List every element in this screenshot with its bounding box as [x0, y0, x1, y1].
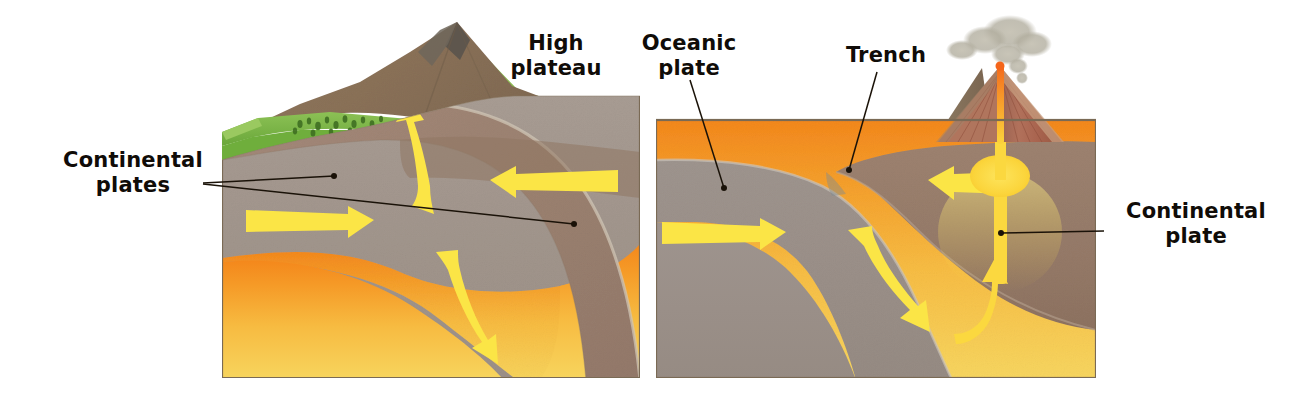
right-cross-section	[656, 120, 1096, 380]
label-oceanic-plate-line1: Oceanic	[642, 31, 737, 55]
label-continental-plates-line2: plates	[96, 173, 170, 197]
leader-endpoint-dot	[331, 173, 337, 179]
right-panel-scene	[656, 15, 1096, 380]
label-high-plateau[interactable]: High plateau	[510, 31, 601, 80]
label-oceanic-plate-line2: plate	[658, 56, 720, 80]
label-trench-line1: Trench	[846, 43, 926, 67]
label-continental-plates-line1: Continental	[63, 148, 203, 172]
volcano	[936, 62, 1064, 145]
diagram-canvas: Continental plates High plateau Oceanic …	[0, 0, 1315, 402]
label-high-plateau-line2: plateau	[510, 56, 601, 80]
leader-endpoint-dot	[846, 167, 852, 173]
label-high-plateau-line1: High	[528, 31, 584, 55]
right-panel	[656, 15, 1096, 380]
tectonics-diagram: Continental plates High plateau Oceanic …	[0, 0, 1315, 402]
leader-endpoint-dot	[571, 221, 577, 227]
leader-endpoint-dot	[721, 185, 727, 191]
leader-endpoint-dot	[998, 230, 1004, 236]
magma-conduit-upper	[995, 140, 1006, 180]
volcano-crater	[996, 62, 1005, 71]
label-continental-plate-line2: plate	[1165, 224, 1227, 248]
label-continental-plate-line1: Continental	[1126, 199, 1266, 223]
volcano-vent	[997, 64, 1004, 144]
